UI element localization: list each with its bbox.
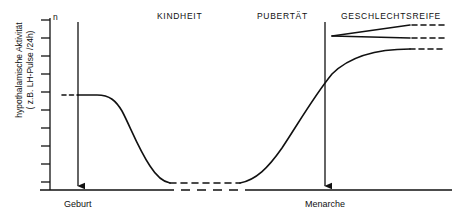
ovulatory-lower-branch bbox=[332, 36, 410, 38]
y-axis-label-line-1: hypothalamische Aktivität bbox=[14, 0, 25, 145]
phase-label-kindheit: KINDHEIT bbox=[157, 11, 202, 21]
hypothalamic-activity-chart bbox=[0, 0, 454, 221]
y-axis-label: hypothalamische Aktivität ( z.B. LH-Puls… bbox=[14, 0, 40, 145]
event-label-menarche: Menarche bbox=[305, 199, 345, 209]
y-axis-unit-symbol: n bbox=[53, 12, 58, 22]
event-label-geburt: Geburt bbox=[64, 199, 92, 209]
y-axis-label-line-2: ( z.B. LH-Pulse /24h) bbox=[25, 0, 36, 145]
data-curves bbox=[62, 25, 444, 183]
phase-label-pubertaet: PUBERTÄT bbox=[257, 11, 308, 21]
main-activity-curve bbox=[78, 95, 170, 183]
y-axis-ticks bbox=[41, 20, 50, 182]
y-axis bbox=[41, 18, 50, 190]
ovulatory-upper-branch bbox=[332, 25, 410, 36]
event-arrows bbox=[78, 22, 325, 186]
phase-label-geschlechtsreife: GESCHLECHTSREIFE bbox=[341, 11, 441, 21]
